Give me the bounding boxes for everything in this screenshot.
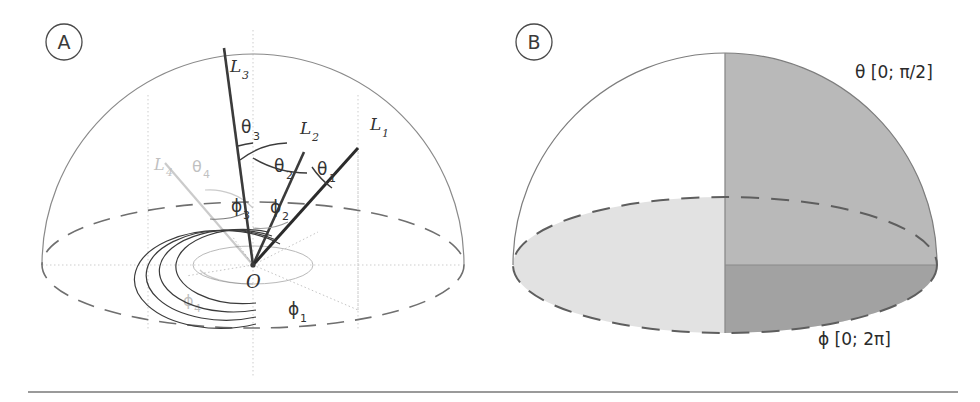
- origin-label: O: [246, 271, 261, 292]
- panel-a: A L 4 θ 4: [42, 24, 464, 378]
- theta2-subscript: 2: [286, 169, 293, 182]
- projection-guide-l1: [253, 265, 358, 310]
- panel-b: B θ [0; π/2] ϕ [0; 2π]: [513, 24, 937, 349]
- vector-l4-subscript: 4: [165, 166, 173, 179]
- panel-b-letter: B: [527, 31, 540, 53]
- figure-container: A L 4 θ 4: [0, 0, 980, 402]
- phi3-subscript: 3: [243, 209, 250, 222]
- vector-l4-label: L: [153, 155, 165, 174]
- panel-b-badge: B: [516, 24, 552, 60]
- theta4-label: θ: [192, 157, 202, 176]
- panel-b-theta-annotation: θ [0; π/2]: [855, 62, 933, 82]
- vector-l1-group: L 1 θ 1 ϕ 1: [134, 114, 389, 328]
- panel-b-phi-annotation: ϕ [0; 2π]: [818, 329, 891, 349]
- theta2-label: θ: [274, 156, 284, 176]
- theta3-subscript: 3: [253, 130, 260, 143]
- theta3-arc-inner: [238, 143, 253, 146]
- vector-l1-subscript: 1: [382, 127, 389, 140]
- panel-b-overlap-wedge: [725, 265, 937, 333]
- theta3-label: θ: [241, 117, 251, 137]
- vector-l3-subscript: 3: [242, 69, 249, 82]
- vector-l2-group: L 2 θ 2 ϕ 2: [253, 118, 319, 265]
- vector-l3-label: L: [229, 56, 241, 76]
- spherical-coordinates-figure: A L 4 θ 4: [0, 0, 980, 402]
- vector-l2-label: L: [299, 118, 311, 138]
- vector-l2-subscript: 2: [311, 131, 319, 144]
- phi4-subscript: 4: [194, 302, 201, 315]
- phi1-label: ϕ: [288, 299, 299, 319]
- phi4-label: ϕ: [183, 291, 194, 310]
- theta4-subscript: 4: [203, 168, 210, 181]
- theta-range-label: θ [0; π/2]: [855, 62, 933, 82]
- panel-a-badge: A: [46, 24, 82, 60]
- origin-point: [250, 262, 255, 267]
- vector-l1-label: L: [369, 114, 381, 134]
- panel-b-quarter-sphere: [725, 53, 937, 265]
- panel-a-letter: A: [58, 31, 71, 53]
- phi3-label: ϕ: [231, 196, 242, 216]
- phi1-subscript: 1: [300, 312, 307, 325]
- phi-range-label: ϕ [0; 2π]: [818, 329, 891, 349]
- phi2-subscript: 2: [282, 210, 289, 223]
- panel-a-origin: O: [246, 262, 261, 292]
- panel-a-grid: [42, 30, 462, 378]
- theta1-subscript: 1: [329, 172, 336, 185]
- phi2-label: ϕ: [270, 197, 281, 217]
- theta1-label: θ: [317, 159, 327, 179]
